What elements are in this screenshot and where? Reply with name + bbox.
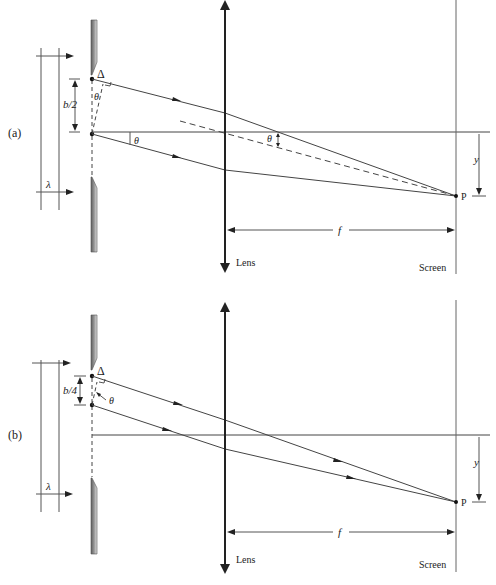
theta-label-slit-a: θ [94, 91, 99, 102]
arrow-right-icon [63, 360, 71, 366]
ray-top-b [92, 376, 456, 502]
lens-b: Lens [220, 302, 256, 574]
arrow-right-icon [66, 189, 74, 195]
slit-separation-dimension-a: b/2 [63, 79, 80, 132]
panel-label-a: (a) [8, 126, 21, 140]
wavefronts-a: λ [36, 48, 74, 210]
ray-arrow-icon [173, 401, 183, 405]
ray-arrow-icon [346, 475, 356, 479]
theta-label-lens-a: θ [267, 133, 272, 144]
offset-dimension-b: y [472, 437, 486, 502]
ray-arrow-icon [162, 427, 172, 431]
lens-arrow-down-icon [220, 564, 230, 574]
lens-arrow-down-icon [220, 263, 230, 273]
focal-label-a: f [338, 224, 343, 236]
path-difference-label-a: Δ [97, 67, 105, 81]
focal-length-dimension-b: f [227, 526, 455, 538]
focal-label-b: f [338, 526, 343, 538]
point-label-b: P [461, 497, 467, 508]
ray-arrow-icon [172, 97, 181, 101]
path-difference-label-b: Δ [97, 364, 105, 378]
single-slit-diffraction-diagram: (a) λ b/2 Δ [0, 0, 496, 585]
panel-a: (a) λ b/2 Δ [8, 0, 490, 274]
point-p-b [454, 500, 458, 504]
lens-arrow-up-icon [220, 0, 230, 10]
lens-label-b: Lens [236, 554, 256, 565]
arrow-right-icon [65, 491, 73, 497]
ray-arrow-icon [333, 458, 343, 462]
offset-label-b: y [473, 456, 479, 468]
wavefronts-b: λ [32, 360, 73, 512]
panel-label-b: (b) [8, 428, 22, 442]
wavelength-label-a: λ [45, 178, 51, 190]
wavelength-label-b: λ [45, 480, 51, 492]
ray-bottom-a [92, 134, 456, 196]
offset-dimension-a: y [472, 134, 486, 196]
offset-label-a: y [473, 153, 479, 165]
ray-bottom-b [92, 405, 456, 502]
lens-arrow-up-icon [220, 302, 230, 312]
lens-label-a: Lens [236, 257, 256, 268]
slit-separation-dimension-b: b/4 [63, 376, 86, 405]
focal-length-dimension-a: f [227, 224, 455, 236]
screen-label-b: Screen [419, 559, 446, 570]
theta-label-ray-a: θ [134, 135, 139, 146]
slit-separation-label-b: b/4 [63, 384, 78, 396]
point-p-a [454, 194, 458, 198]
slit-separation-label-a: b/2 [63, 98, 78, 110]
ray-arrow-icon [172, 154, 181, 158]
ray-top-a [92, 79, 456, 196]
point-label-a: P [461, 191, 467, 202]
panel-b: (b) λ b/4 Δ [8, 300, 490, 574]
screen-label-a: Screen [419, 262, 446, 273]
lens-a: Lens [220, 0, 256, 273]
arrow-right-icon [66, 53, 74, 59]
theta-label-slit-b: θ [109, 395, 114, 406]
